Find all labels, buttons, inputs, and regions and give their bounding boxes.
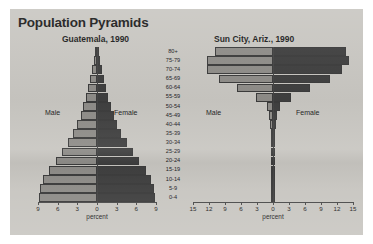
axis-tick-label: 0 xyxy=(95,205,98,212)
bar-male xyxy=(81,111,97,120)
bar-male xyxy=(83,102,97,111)
age-group-label: 50-54 xyxy=(158,102,188,111)
age-group-label: 20-24 xyxy=(158,157,188,166)
age-group-label: 75-79 xyxy=(158,56,188,65)
bar-female xyxy=(97,75,104,84)
bar-male xyxy=(256,93,273,102)
pyramid-chart-guatemala xyxy=(38,47,156,202)
bar-male xyxy=(40,184,97,193)
axis-tick-label: 6 xyxy=(135,205,138,212)
page-title: Population Pyramids xyxy=(18,15,148,30)
bar-female xyxy=(97,84,106,93)
axis-tick-label: 3 xyxy=(255,205,258,212)
axis-tick-label: 3 xyxy=(287,205,290,212)
axis-tick-label: 9 xyxy=(319,205,322,212)
axis-tick-label: 6 xyxy=(239,205,242,212)
female-label-suncity: Female xyxy=(296,109,319,116)
axis-tick-label: 3 xyxy=(76,205,79,212)
age-group-axis: 80+75-7970-7465-6960-6455-5950-5445-4940… xyxy=(158,47,188,202)
bar-female xyxy=(97,138,127,147)
bar-male xyxy=(86,93,97,102)
age-group-label: 65-69 xyxy=(158,74,188,83)
center-axis-line-suncity xyxy=(273,47,274,202)
pyramid-chart-suncity xyxy=(193,47,353,202)
axis-tick-label: 6 xyxy=(56,205,59,212)
bar-male xyxy=(237,84,273,93)
age-group-label: 15-19 xyxy=(158,166,188,175)
age-group-label: 60-64 xyxy=(158,84,188,93)
bar-male xyxy=(73,129,97,138)
x-axis-guatemala: percent 9630369 xyxy=(38,202,156,218)
bar-female xyxy=(97,111,114,120)
age-group-label: 0-4 xyxy=(158,193,188,202)
bar-male xyxy=(215,47,273,56)
bar-female xyxy=(97,102,111,111)
age-group-label: 45-49 xyxy=(158,111,188,120)
bar-female xyxy=(97,157,139,166)
axis-tick-label: 9 xyxy=(223,205,226,212)
age-group-label: 10-14 xyxy=(158,175,188,184)
axis-tick-label: 9 xyxy=(36,205,39,212)
bar-female xyxy=(97,175,151,184)
age-group-label: 25-29 xyxy=(158,147,188,156)
bar-male xyxy=(219,75,273,84)
bar-female xyxy=(273,47,346,56)
axis-tick-label: 12 xyxy=(206,205,213,212)
bar-female xyxy=(97,184,154,193)
axis-tick-label: 15 xyxy=(350,205,357,212)
bar-female xyxy=(273,111,277,120)
bar-male xyxy=(77,120,97,129)
age-group-label: 80+ xyxy=(158,47,188,56)
bar-female xyxy=(273,65,342,74)
axis-tick-label: 3 xyxy=(115,205,118,212)
age-group-label: 40-44 xyxy=(158,120,188,129)
age-group-label: 30-34 xyxy=(158,138,188,147)
bar-female xyxy=(273,56,349,65)
x-axis-title-guatemala: percent xyxy=(86,213,107,220)
x-axis-title-suncity: percent xyxy=(262,213,283,220)
bar-female xyxy=(273,93,291,102)
age-group-label: 70-74 xyxy=(158,65,188,74)
bar-male xyxy=(207,56,273,65)
chart-title-suncity: Sun City, Ariz., 1990 xyxy=(214,34,294,44)
male-label-guatemala: Male xyxy=(45,109,60,116)
age-group-label: 5-9 xyxy=(158,184,188,193)
male-label-suncity: Male xyxy=(206,109,221,116)
axis-tick-label: 12 xyxy=(334,205,341,212)
bar-female xyxy=(97,93,108,102)
bar-female xyxy=(97,65,102,74)
age-group-label: 55-59 xyxy=(158,93,188,102)
bar-male xyxy=(49,166,97,175)
bar-male xyxy=(39,193,97,202)
bar-male xyxy=(62,148,97,157)
axis-tick-label: 6 xyxy=(303,205,306,212)
axis-tick-label: 0 xyxy=(271,205,274,212)
bar-female xyxy=(97,129,121,138)
bar-male xyxy=(56,157,97,166)
bar-female xyxy=(273,84,310,93)
female-label-guatemala: Female xyxy=(114,109,137,116)
bar-female xyxy=(97,120,117,129)
bar-female xyxy=(273,102,280,111)
age-group-label: 35-39 xyxy=(158,129,188,138)
axis-tick-label: 15 xyxy=(190,205,197,212)
axis-tick-label: 9 xyxy=(154,205,157,212)
bar-female xyxy=(97,166,146,175)
center-axis-line-guatemala xyxy=(97,47,98,202)
bar-female xyxy=(273,75,330,84)
bar-female xyxy=(97,193,155,202)
bar-male xyxy=(207,65,273,74)
bar-male xyxy=(43,175,97,184)
bar-female xyxy=(97,148,133,157)
chart-title-guatemala: Guatemala, 1990 xyxy=(62,34,129,44)
x-axis-suncity: percent 151296303691215 xyxy=(193,202,353,218)
figure-panel: Population Pyramids Guatemala, 1990 Sun … xyxy=(10,9,363,235)
bar-male xyxy=(68,138,97,147)
